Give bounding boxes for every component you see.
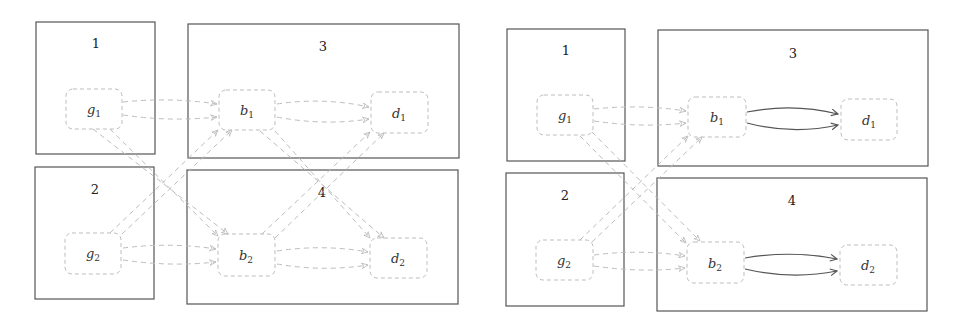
- node-g1: g1: [66, 89, 122, 129]
- node-g2: g2: [65, 233, 121, 274]
- node-d1: d1: [371, 92, 428, 133]
- svg-text:3: 3: [789, 46, 797, 61]
- svg-text:d1: d1: [392, 106, 406, 123]
- svg-text:b1: b1: [710, 110, 724, 127]
- svg-text:4: 4: [788, 193, 796, 208]
- left-diagram: 1 3 2 4: [35, 22, 459, 304]
- region-3: 3: [188, 24, 459, 158]
- region-3: 3: [658, 30, 928, 166]
- region-4: 4: [187, 170, 458, 304]
- svg-text:2: 2: [91, 182, 99, 197]
- svg-text:2: 2: [561, 188, 569, 203]
- node-g1: g1: [537, 95, 593, 135]
- node-g2: g2: [536, 240, 593, 280]
- svg-text:g2: g2: [557, 253, 571, 270]
- svg-text:1: 1: [562, 43, 570, 58]
- svg-text:3: 3: [319, 39, 327, 54]
- node-d1: d1: [841, 99, 897, 140]
- region-4: 4: [657, 178, 927, 311]
- svg-text:d1: d1: [862, 113, 876, 130]
- diagram-canvas: 1 3 2 4: [0, 0, 955, 329]
- node-b2: b2: [218, 234, 275, 276]
- svg-text:1: 1: [92, 36, 100, 51]
- right-diagram: 1 3 2 4 g1: [506, 29, 928, 311]
- svg-text:b2: b2: [708, 256, 722, 273]
- region-1: 1: [36, 22, 155, 154]
- svg-text:g1: g1: [558, 108, 572, 125]
- svg-text:b1: b1: [240, 103, 254, 120]
- node-d2: d2: [840, 245, 897, 285]
- svg-text:d2: d2: [861, 258, 875, 275]
- edges-left: [93, 100, 384, 268]
- node-d2: d2: [370, 238, 427, 278]
- edges-right: [580, 107, 838, 275]
- svg-text:b2: b2: [239, 248, 253, 265]
- svg-text:g1: g1: [87, 102, 101, 119]
- svg-text:d2: d2: [391, 251, 405, 268]
- svg-text:g2: g2: [86, 246, 100, 263]
- node-b2: b2: [687, 242, 744, 283]
- node-b1: b1: [688, 97, 746, 137]
- node-b1: b1: [219, 90, 275, 130]
